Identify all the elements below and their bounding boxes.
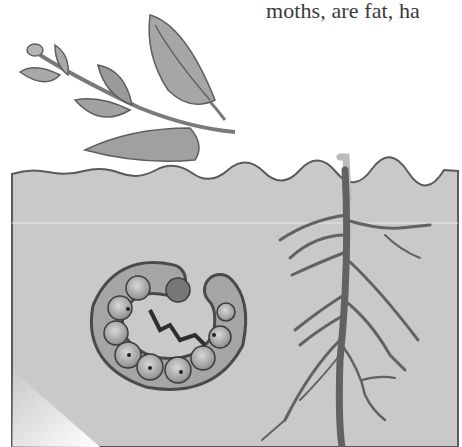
cutworm-illustration [0, 0, 462, 447]
plant-stem-with-leaves [20, 15, 235, 161]
